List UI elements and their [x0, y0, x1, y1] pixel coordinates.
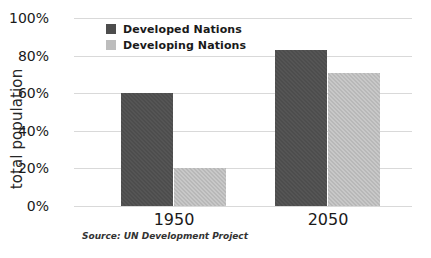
legend-swatch-icon-developed	[106, 24, 116, 34]
bar-2050-developed	[275, 50, 327, 206]
bar-1950-developing	[174, 168, 226, 206]
y-tick-label-0: 0%	[0, 198, 49, 214]
chart-legend: Developed Nations Developing Nations	[106, 22, 246, 54]
legend-item-developed: Developed Nations	[106, 22, 246, 36]
bar-chart: total population 100% 80% 60% 40% 20% 0%…	[0, 0, 431, 258]
y-tick-label-20: 20%	[0, 160, 49, 176]
y-tick-label-80: 80%	[0, 48, 49, 64]
x-tick-label-2050: 2050	[308, 210, 349, 229]
legend-label-developing: Developing Nations	[123, 39, 246, 52]
y-tick-label-100: 100%	[0, 10, 49, 26]
x-tick-label-1950: 1950	[154, 210, 195, 229]
legend-item-developing: Developing Nations	[106, 38, 246, 52]
y-tick-label-60: 60%	[0, 85, 49, 101]
bar-2050-developing	[328, 73, 380, 207]
bar-1950-developed	[121, 93, 173, 206]
legend-label-developed: Developed Nations	[123, 23, 242, 36]
gridline-80	[74, 56, 412, 57]
y-tick-label-40: 40%	[0, 123, 49, 139]
gridline-0	[74, 206, 412, 207]
gridline-100	[74, 18, 412, 19]
legend-swatch-icon-developing	[106, 40, 116, 50]
source-note: Source: UN Development Project	[82, 231, 248, 241]
